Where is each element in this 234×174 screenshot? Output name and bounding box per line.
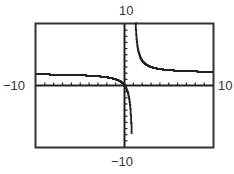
graph-window [0, 0, 234, 174]
